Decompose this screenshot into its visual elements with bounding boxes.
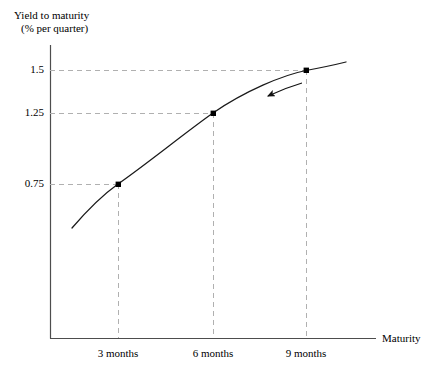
x-tick-label-3-months: 3 months [78, 348, 158, 359]
chart-canvas [0, 0, 430, 370]
horizontal-gridlines [50, 71, 306, 185]
y-axis-title-line-1: Yield to maturity [14, 9, 89, 22]
y-tick-label-0-75: 0.75 [4, 178, 44, 189]
direction-arrow-icon [268, 83, 302, 96]
x-axis-label: Maturity [382, 333, 421, 344]
y-axis-title: Yield to maturity (% per quarter) [14, 9, 89, 35]
data-point-9-months [304, 68, 309, 73]
y-axis-title-line-2: (% per quarter) [14, 22, 89, 35]
data-point-6-months [211, 111, 216, 116]
x-tick-label-6-months: 6 months [173, 348, 253, 359]
vertical-gridlines [119, 70, 307, 338]
y-tick-label-1-25: 1.25 [4, 107, 44, 118]
data-point-markers [116, 68, 309, 187]
yield-curve-figure: Yield to maturity (% per quarter) 1.5 1.… [0, 0, 430, 370]
data-point-3-months [116, 182, 121, 187]
yield-curve-path [72, 62, 346, 228]
x-tick-label-9-months: 9 months [266, 348, 346, 359]
y-tick-label-1-5: 1.5 [4, 64, 44, 75]
